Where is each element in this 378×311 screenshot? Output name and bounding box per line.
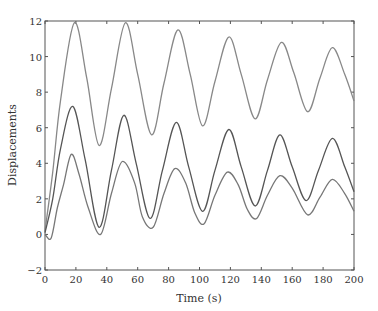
y-tick-label: 6 bbox=[36, 123, 42, 134]
series-lines bbox=[45, 23, 354, 240]
x-tick-label: 20 bbox=[70, 274, 83, 285]
x-tick-label: 180 bbox=[314, 274, 333, 285]
x-tick-label: 60 bbox=[131, 274, 144, 285]
x-axis-label: Time (s) bbox=[176, 292, 222, 305]
y-tick-label: −2 bbox=[27, 265, 42, 276]
tick-marks: 020406080100120140160180200−2024681012 bbox=[27, 16, 363, 285]
x-tick-label: 140 bbox=[252, 274, 271, 285]
x-tick-label: 0 bbox=[42, 274, 48, 285]
chart-container: 020406080100120140160180200−2024681012 T… bbox=[0, 0, 378, 311]
x-tick-label: 160 bbox=[283, 274, 302, 285]
y-axis-label: Displacements bbox=[6, 104, 19, 186]
axes-frame bbox=[45, 21, 354, 270]
x-tick-label: 40 bbox=[100, 274, 113, 285]
y-tick-label: 4 bbox=[36, 158, 42, 169]
plot-frame bbox=[45, 21, 354, 270]
series-line-middle bbox=[45, 106, 354, 232]
y-tick-label: 12 bbox=[29, 16, 42, 27]
y-tick-label: 8 bbox=[36, 87, 42, 98]
x-tick-label: 120 bbox=[221, 274, 240, 285]
y-tick-label: 2 bbox=[36, 194, 42, 205]
x-tick-label: 80 bbox=[162, 274, 175, 285]
y-tick-label: 0 bbox=[36, 229, 42, 240]
line-chart: 020406080100120140160180200−2024681012 T… bbox=[0, 0, 378, 311]
x-tick-label: 200 bbox=[344, 274, 363, 285]
y-tick-label: 10 bbox=[29, 52, 42, 63]
x-tick-label: 100 bbox=[190, 274, 209, 285]
